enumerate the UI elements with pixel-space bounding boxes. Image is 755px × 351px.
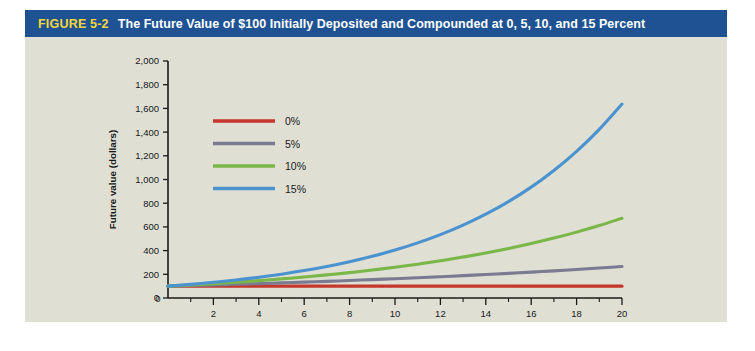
figure-panel: FIGURE 5-2 The Future Value of $100 Init… (25, 10, 727, 322)
page-title: The Future Value of $100 Initially Depos… (118, 17, 645, 31)
x-tick-label: 18 (571, 308, 582, 319)
y-tick-label: 800 (143, 198, 159, 209)
series-line-10pct (168, 218, 622, 286)
figure-number-label: FIGURE 5-2 (38, 17, 109, 31)
y-tick-label: 1,000 (135, 174, 159, 185)
y-tick-label: 200 (143, 269, 159, 280)
x-tick-label: 6 (302, 308, 307, 319)
y-tick-label: 1,200 (135, 150, 159, 161)
y-tick-label: 600 (143, 221, 159, 232)
series-line-15pct (168, 104, 622, 286)
chart-plot-area: 02004006008001,0001,2001,4001,6001,8002,… (25, 37, 727, 322)
x-tick-label: 10 (390, 308, 401, 319)
y-axis-ticks: 02004006008001,0001,2001,4001,6001,8002,… (135, 55, 168, 303)
x-tick-label: 4 (256, 308, 261, 319)
x-tick-label: 2 (211, 308, 216, 319)
y-tick-label: 2,000 (135, 55, 159, 66)
line-chart: 02004006008001,0001,2001,4001,6001,8002,… (25, 37, 727, 322)
x-tick-label: 0 (155, 293, 160, 304)
figure-title-bar: FIGURE 5-2 The Future Value of $100 Init… (25, 10, 727, 37)
y-tick-label: 400 (143, 245, 159, 256)
y-axis-title: Future value (dollars) (107, 130, 118, 230)
x-tick-label: 8 (347, 308, 352, 319)
legend-label-0pct: 0% (285, 115, 300, 127)
legend-label-10pct: 10% (285, 160, 306, 172)
x-tick-label: 20 (617, 308, 628, 319)
y-tick-label: 1,600 (135, 103, 159, 114)
x-axis-ticks: 02468101214161820 (155, 293, 627, 319)
chart-legend: 0%5%10%15% (213, 115, 306, 195)
y-tick-label: 1,800 (135, 79, 159, 90)
x-tick-label: 16 (526, 308, 537, 319)
x-tick-label: 12 (435, 308, 446, 319)
x-tick-label: 14 (481, 308, 492, 319)
data-series-group (168, 104, 622, 286)
y-tick-label: 1,400 (135, 127, 159, 138)
legend-label-5pct: 5% (285, 138, 300, 150)
legend-label-15pct: 15% (285, 183, 306, 195)
